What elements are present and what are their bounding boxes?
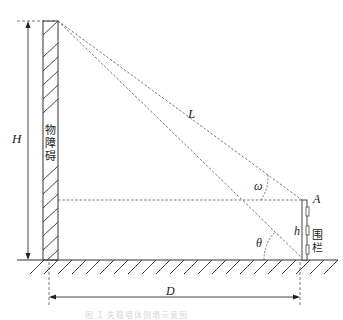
fence-char-1: 围 xyxy=(311,229,323,242)
label-A: A xyxy=(313,193,320,205)
height-H-dimension xyxy=(26,21,31,260)
diagram-canvas: H L ω A h θ D 物 障 碍 围 栏 图 1 失稳墙体倒塌示意图 xyxy=(0,0,343,320)
label-H: H xyxy=(12,132,21,145)
fence-char-2: 栏 xyxy=(311,242,323,255)
line-L xyxy=(58,21,302,200)
fence-label: 围 栏 xyxy=(311,229,323,255)
fence xyxy=(302,200,309,260)
label-L: L xyxy=(188,107,195,120)
ground xyxy=(17,260,338,274)
label-theta: θ xyxy=(256,237,262,249)
label-omega: ω xyxy=(254,180,262,192)
wall-label: 物 障 碍 xyxy=(44,124,56,163)
figure-caption: 图 1 失稳墙体倒塌示意图 xyxy=(85,309,188,320)
sight-lines xyxy=(58,21,304,260)
label-D: D xyxy=(166,285,175,297)
line-to-fence-base xyxy=(58,21,304,260)
wall-char-2: 障 xyxy=(44,137,56,150)
label-h: h xyxy=(294,225,300,237)
wall-char-3: 碍 xyxy=(44,150,56,163)
theta-arc xyxy=(264,232,275,260)
wall-char-1: 物 xyxy=(44,124,56,137)
